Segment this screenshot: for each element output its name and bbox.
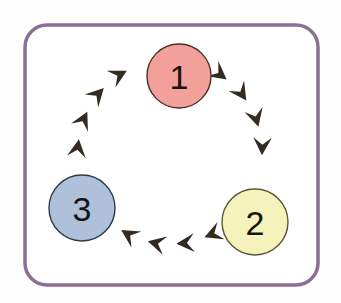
cycle-node-1[interactable]: 1	[147, 44, 211, 108]
node-label-2: 2	[246, 204, 265, 242]
node-label-1: 1	[170, 58, 189, 96]
node-label-3: 3	[73, 190, 92, 228]
cycle-node-3[interactable]: 3	[49, 175, 115, 241]
diagram-canvas: 123	[0, 0, 341, 303]
cycle-node-2[interactable]: 2	[222, 189, 288, 255]
cycle-diagram: 123	[0, 0, 341, 303]
